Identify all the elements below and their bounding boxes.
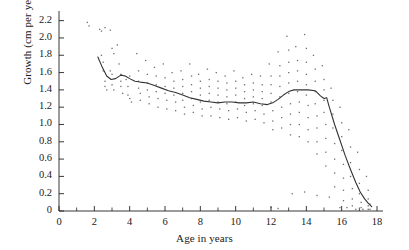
y-tick-label: 2.0: [8, 31, 52, 42]
y-tick-label: 0.6: [8, 152, 52, 163]
y-tick-label: 1.4: [8, 83, 52, 94]
axis-layer: [59, 11, 383, 211]
x-tick-label: 6: [145, 216, 185, 227]
x-axis-label: Age in years: [0, 232, 409, 244]
y-tick-label: 1.6: [8, 66, 52, 77]
y-tick-label: 1.0: [8, 117, 52, 128]
chart-canvas: [0, 0, 409, 250]
y-tick-label: 2.2: [8, 14, 52, 25]
y-tick-label: 0: [8, 204, 52, 215]
y-tick-label: 0.4: [8, 169, 52, 180]
mean-growth-curve: [98, 57, 372, 207]
x-tick-label: 12: [251, 216, 291, 227]
x-tick-label: 0: [39, 216, 79, 227]
growth-velocity-chart: Growth (cm per year) Age in years 00.20.…: [0, 0, 409, 250]
y-tick-label: 0.8: [8, 135, 52, 146]
x-tick-label: 18: [357, 216, 397, 227]
y-tick-label: 1.2: [8, 100, 52, 111]
y-tick-label: 0.2: [8, 187, 52, 198]
x-tick-label: 2: [74, 216, 114, 227]
scatter-layer: [87, 22, 371, 210]
y-tick-label: 1.8: [8, 48, 52, 59]
x-tick-label: 16: [322, 216, 362, 227]
x-tick-label: 8: [180, 216, 220, 227]
x-tick-label: 10: [216, 216, 256, 227]
x-tick-label: 4: [110, 216, 150, 227]
x-tick-label: 14: [286, 216, 326, 227]
